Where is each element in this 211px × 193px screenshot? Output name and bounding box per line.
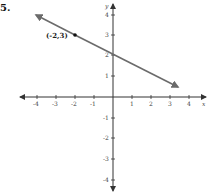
y-tick-label: 4 (105, 11, 109, 18)
y-tick-label: 3 (105, 31, 109, 38)
y-tick-label: -3 (103, 155, 109, 162)
y-axis-label: y (104, 2, 109, 10)
y-tick-label: -4 (103, 176, 109, 183)
point-marker (73, 33, 77, 37)
x-tick-label: 2 (149, 100, 153, 107)
x-tick-label: -1 (90, 100, 96, 107)
y-tick-label: -1 (103, 114, 109, 121)
x-tick-label: -2 (71, 100, 77, 107)
x-tick-label: 1 (130, 100, 134, 107)
point-label: (-2,3) (46, 31, 68, 40)
x-tick-label: -4 (33, 100, 39, 107)
x-tick-label: 3 (168, 100, 172, 107)
coordinate-graph: -4 -3 -2 -1 1 2 3 4 x 4 3 2 1 -1 -2 -3 -… (0, 0, 211, 193)
y-tick-label: 1 (105, 72, 109, 79)
x-tick-label: 4 (187, 100, 191, 107)
y-tick-label: -2 (103, 134, 109, 141)
x-axis-label: x (202, 100, 206, 107)
x-tick-label: -3 (52, 100, 58, 107)
